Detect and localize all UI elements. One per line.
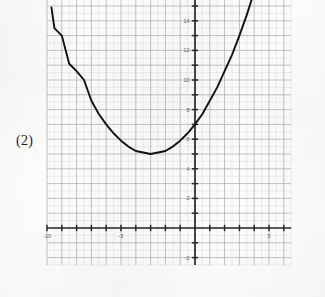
y-tick-label: -2 — [185, 255, 190, 261]
x-tick-label: -10 — [43, 233, 51, 239]
y-tick-label: 2 — [187, 195, 190, 201]
parabola-curve — [51, 0, 252, 154]
x-tick-label: -5 — [119, 233, 124, 239]
x-tick-label: 5 — [268, 233, 271, 239]
y-tick-label: 10 — [184, 77, 190, 83]
coordinate-plane: -10-551412108642-2 — [0, 0, 325, 297]
y-tick-label: 12 — [184, 47, 190, 53]
y-tick-label: 6 — [187, 136, 190, 142]
y-tick-label: 4 — [187, 166, 190, 172]
parabola-path — [51, 0, 252, 154]
y-tick-label: 14 — [184, 18, 190, 24]
graph-figure: (2) -10-551412108642-2 — [0, 0, 325, 297]
y-tick-label: 8 — [187, 107, 190, 113]
